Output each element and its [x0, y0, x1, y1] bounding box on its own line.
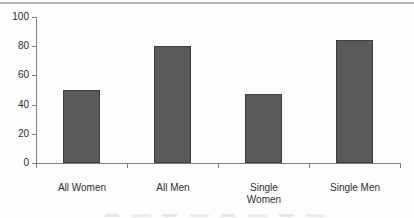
y-axis-tick-label: 40: [5, 100, 29, 110]
y-axis-tick: [32, 105, 37, 106]
bar-single-men: [336, 40, 373, 163]
x-axis-tick: [36, 164, 37, 168]
y-axis-tick: [32, 134, 37, 135]
x-axis-line: [33, 163, 401, 164]
x-axis-tick: [400, 164, 401, 168]
bar-all-men: [154, 46, 191, 163]
x-axis-tick: [309, 164, 310, 168]
y-axis-tick: [32, 17, 37, 18]
x-axis-tick: [218, 164, 219, 168]
x-axis-category-label: All Men: [128, 182, 218, 194]
x-axis-category-label: Single Men: [310, 182, 400, 194]
y-axis-tick-label: 0: [5, 158, 29, 168]
y-axis-tick-label: 80: [5, 41, 29, 51]
x-axis-category-label: Single Women: [219, 182, 309, 206]
y-axis-tick-label: 100: [5, 12, 29, 22]
bar-all-women: [63, 90, 100, 163]
y-axis-tick: [32, 46, 37, 47]
y-axis-tick-label: 60: [5, 70, 29, 80]
chart-figure: 020406080100All WomenAll MenSingle Women…: [0, 0, 414, 218]
x-axis-tick: [127, 164, 128, 168]
cropped-caption-artifact: [105, 214, 333, 217]
y-axis-tick: [32, 75, 37, 76]
y-axis-line: [36, 17, 37, 164]
bar-chart-plot-area: 020406080100All WomenAll MenSingle Women…: [0, 0, 414, 218]
x-axis-category-label: All Women: [37, 182, 127, 194]
bar-single-women: [245, 94, 282, 163]
y-axis-tick-label: 20: [5, 129, 29, 139]
